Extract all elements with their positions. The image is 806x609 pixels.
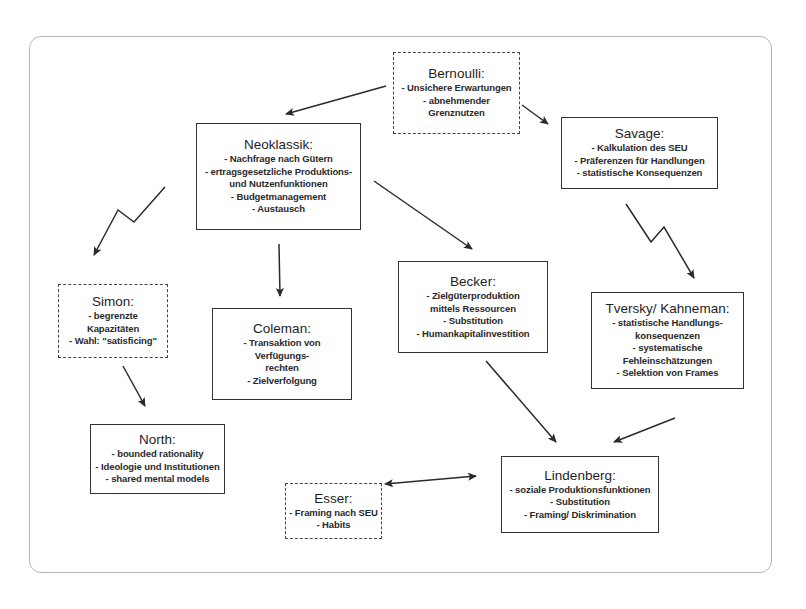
node-line: - shared mental models — [106, 473, 210, 486]
arrow-becker-lindenberg — [486, 361, 556, 442]
node-line: und Nutzenfunktionen — [229, 178, 327, 191]
arrow-simon-north — [123, 366, 145, 406]
node-line: Verfügungs- — [255, 350, 309, 363]
node-north: North: - bounded rationality - Ideologie… — [90, 424, 225, 494]
node-line: - Wahl: "satisficing" — [69, 335, 157, 348]
node-title: Tversky/ Kahneman: — [606, 301, 730, 317]
node-line: - statistische Handlungs- — [612, 317, 722, 330]
node-neoklassik: Neoklassik: - Nachfrage nach Gütern - er… — [196, 123, 361, 230]
node-line: Kapazitäten — [87, 323, 139, 336]
node-coleman: Coleman: - Transaktion von Verfügungs- r… — [212, 308, 352, 400]
node-line: Fehleinschätzungen — [623, 355, 713, 368]
node-line: Grenznutzen — [428, 107, 484, 120]
node-line: - soziale Produktionsfunktionen — [510, 484, 651, 497]
node-esser: Esser: - Framing nach SEU - Habits — [285, 483, 382, 539]
node-line: - abnehmender — [423, 95, 490, 108]
node-becker: Becker: - Zielgüterproduktion mittels Re… — [398, 261, 548, 353]
node-line: - Ideologie und Institutionen — [95, 461, 219, 474]
node-line: - Unsichere Erwartungen — [401, 82, 511, 95]
node-line: - Selektion von Frames — [617, 367, 719, 380]
node-tversky-kahneman: Tversky/ Kahneman: - statistische Handlu… — [591, 292, 744, 389]
arrow-bernoulli-neoklassik — [286, 86, 386, 114]
node-title: North: — [139, 432, 176, 448]
node-title: Esser: — [314, 491, 352, 507]
arrow-esser-lindenberg-bidirectional — [385, 476, 476, 484]
node-line: - Substitution — [550, 496, 610, 509]
node-title: Neoklassik: — [244, 137, 313, 153]
node-line: - Humankapitalinvestition — [416, 328, 529, 341]
node-title: Savage: — [615, 126, 665, 142]
node-savage: Savage: - Kalkulation des SEU - Präferen… — [561, 117, 718, 189]
node-line: - Kalkulation des SEU — [591, 142, 687, 155]
node-line: - Präferenzen für Handlungen — [574, 155, 704, 168]
node-line: - begrenzte — [88, 310, 138, 323]
node-line: - systematische — [633, 342, 703, 355]
node-line: - Austausch — [252, 203, 305, 216]
node-line: - Zielgüterproduktion — [426, 290, 519, 303]
node-title: Becker: — [450, 274, 496, 290]
arrow-bernoulli-savage — [522, 105, 548, 124]
node-line: - Framing nach SEU — [289, 507, 377, 520]
arrow-neoklassik-simon-zigzag — [94, 187, 165, 255]
node-bernoulli: Bernoulli: - Unsichere Erwartungen - abn… — [393, 52, 520, 134]
arrow-savage-tversky-zigzag — [626, 204, 694, 278]
node-line: - Framing/ Diskrimination — [524, 509, 636, 522]
node-title: Simon: — [92, 294, 134, 310]
node-line: mittels Ressourcen — [430, 303, 516, 316]
node-line: rechten — [265, 362, 299, 375]
node-line: - Habits — [316, 519, 350, 532]
arrow-tversky-lindenberg — [614, 418, 675, 442]
node-line: konsequenzen — [635, 330, 700, 343]
node-line: - Zielverfolgung — [247, 375, 317, 388]
node-line: - statistische Konsequenzen — [577, 167, 703, 180]
node-lindenberg: Lindenberg: - soziale Produktionsfunktio… — [501, 456, 659, 533]
node-line: - Transaktion von — [244, 337, 321, 350]
node-simon: Simon: - begrenzte Kapazitäten - Wahl: "… — [58, 284, 168, 358]
node-line: - Substitution — [443, 315, 503, 328]
node-title: Coleman: — [253, 321, 311, 337]
node-line: - ertragsgesetzliche Produktions- — [205, 166, 352, 179]
node-line: - Budgetmanagement — [231, 191, 326, 204]
node-title: Lindenberg: — [544, 468, 615, 484]
node-line: - bounded rationality — [112, 448, 204, 461]
node-title: Bernoulli: — [428, 66, 484, 82]
node-line: - Nachfrage nach Gütern — [224, 153, 333, 166]
arrow-neoklassik-becker — [374, 181, 472, 249]
arrow-neoklassik-coleman — [279, 244, 280, 296]
